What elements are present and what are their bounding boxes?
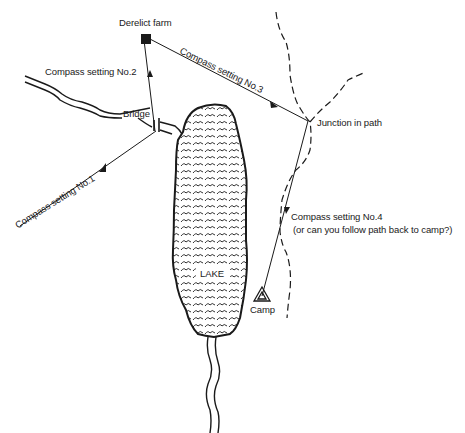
- footpath: [276, 12, 366, 318]
- camp-tent-icon: [254, 287, 270, 301]
- river-south: [206, 337, 219, 433]
- lake: [173, 104, 247, 337]
- orienteering-map: [0, 0, 465, 433]
- farm-square-icon: [141, 34, 151, 44]
- junction-label: Junction in path: [317, 117, 382, 128]
- bridge-label: Bridge: [123, 108, 150, 119]
- route-4-label: Compass setting No.4: [291, 211, 382, 222]
- camp-label: Camp: [250, 304, 275, 315]
- route-4-note: (or can you follow path back to camp?): [293, 224, 452, 235]
- lake-label: LAKE: [200, 268, 224, 279]
- bridge-icon: [154, 118, 182, 134]
- route-2-label: Compass setting No.2: [45, 66, 136, 77]
- farm-label: Derelict farm: [119, 17, 172, 28]
